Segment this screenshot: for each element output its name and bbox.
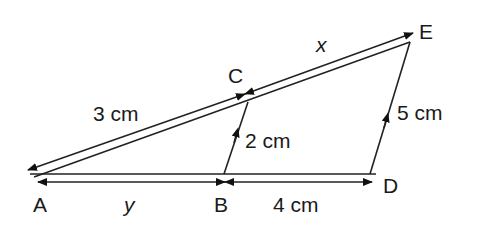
triangle-lines	[30, 42, 410, 177]
measure-bd: 4 cm	[273, 193, 319, 216]
point-label-b: B	[214, 193, 228, 216]
measure-bc: 2 cm	[245, 129, 291, 152]
measure-ce: x	[315, 33, 328, 56]
parallel-arrow-de	[384, 117, 387, 128]
measure-de: 5 cm	[397, 101, 443, 124]
similar-triangles-diagram: A B C D E 3 cm x 2 cm 5 cm y 4 cm	[0, 0, 479, 227]
point-label-c: C	[228, 64, 243, 87]
point-label-d: D	[383, 174, 398, 197]
point-label-a: A	[33, 193, 47, 216]
measure-ab: y	[122, 193, 136, 216]
line-ae	[34, 42, 410, 177]
measure-ac: 3 cm	[93, 102, 139, 125]
point-label-e: E	[419, 20, 433, 43]
dimension-ce	[245, 33, 413, 94]
